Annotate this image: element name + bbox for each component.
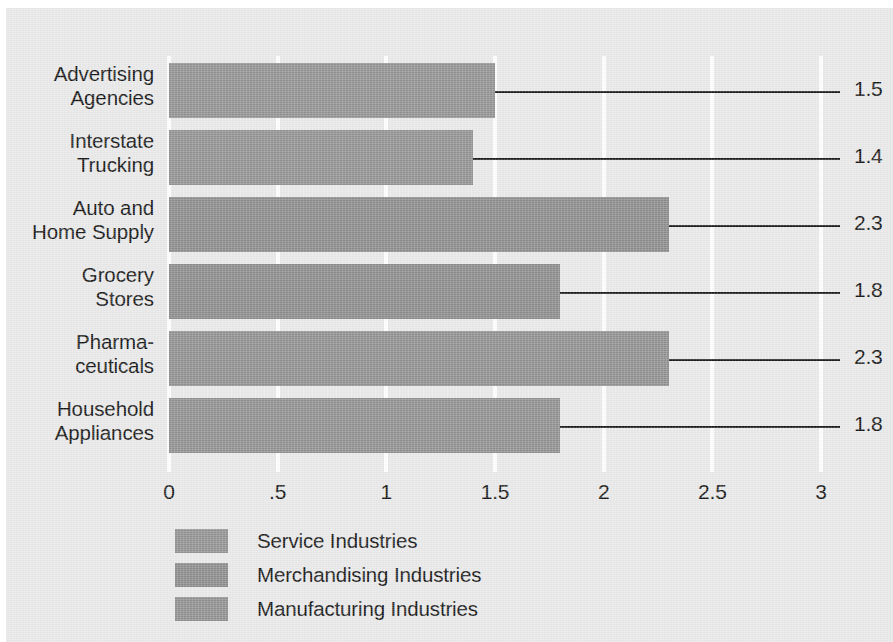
chart-screenshot: AdvertisingAgenciesInterstateTruckingAut… [0,0,893,642]
x-axis-tick-label: 1 [381,480,392,504]
x-axis-tick-label: 0 [163,480,174,504]
category-label-line: Appliances [12,421,154,445]
plot-area [169,56,821,458]
category-label: InterstateTrucking [12,129,154,177]
category-label-line: Household [12,397,154,421]
legend-label: Merchandising Industries [257,563,481,587]
gridline [602,56,606,458]
legend-swatch [175,563,228,587]
category-label-line: Auto and [12,196,154,220]
x-axis-tick-label: 1.5 [481,480,510,504]
gridline [819,56,823,458]
legend-label: Manufacturing Industries [257,597,478,621]
bar [169,264,560,319]
value-label: 2.3 [854,211,883,235]
category-label-line: Pharma- [12,330,154,354]
x-axis-tick-label: 3 [815,480,826,504]
category-label-line: Stores [12,287,154,311]
category-label-line: Interstate [12,129,154,153]
category-label: GroceryStores [12,263,154,311]
value-leader-line [560,426,840,428]
bar [169,130,473,185]
value-leader-line [495,91,840,93]
legend-item: Manufacturing Industries [175,594,481,624]
value-label: 2.3 [854,345,883,369]
category-label: Auto andHome Supply [12,196,154,244]
chart-canvas: AdvertisingAgenciesInterstateTruckingAut… [6,8,893,642]
category-label: AdvertisingAgencies [12,62,154,110]
value-label: 1.4 [854,144,883,168]
category-label-line: Advertising [12,62,154,86]
x-axis-tickmark [602,458,606,472]
value-leader-line [669,359,840,361]
x-axis-tick-label: .5 [269,480,286,504]
chart-legend: Service IndustriesMerchandising Industri… [175,526,481,628]
bar [169,331,669,386]
value-label: 1.5 [854,77,883,101]
category-label-line: Agencies [12,86,154,110]
value-label: 1.8 [854,278,883,302]
x-axis-tickmark [710,458,714,472]
category-label-line: Home Supply [12,220,154,244]
x-axis-tickmark [384,458,388,472]
category-label-line: ceuticals [12,354,154,378]
value-leader-line [473,158,840,160]
legend-item: Service Industries [175,526,481,556]
x-axis-tick-label: 2 [598,480,609,504]
category-label: Pharma-ceuticals [12,330,154,378]
category-label: HouseholdAppliances [12,397,154,445]
legend-swatch [175,597,228,621]
bar [169,197,669,252]
x-axis-tick-label: 2.5 [698,480,727,504]
legend-item: Merchandising Industries [175,560,481,590]
gridline [710,56,714,458]
x-axis-tickmark [819,458,823,472]
value-leader-line [669,225,840,227]
value-label: 1.8 [854,412,883,436]
x-axis-tickmark [276,458,280,472]
category-label-line: Grocery [12,263,154,287]
category-label-line: Trucking [12,153,154,177]
legend-label: Service Industries [257,529,417,553]
bar [169,63,495,118]
x-axis-tickmark [493,458,497,472]
bar [169,398,560,453]
legend-swatch [175,529,228,553]
x-axis-tickmark [167,458,171,472]
value-leader-line [560,292,840,294]
